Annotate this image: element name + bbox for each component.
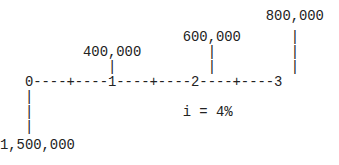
row-1500k-label: 1,500,000 [0, 138, 75, 153]
interest-rate-row: | i = 4% [0, 105, 233, 120]
down-arrow-2: | [0, 120, 33, 135]
row-400k-label: 400,000 | | [0, 45, 299, 60]
row-600k-label: 600,000 | [0, 30, 299, 45]
timeline-axis: 0----+----1----+----2----+----3 [0, 75, 282, 90]
down-arrow-1: | [0, 90, 33, 105]
row-up-arrows: | | | [0, 60, 299, 75]
row-800k-label: 800,000 [0, 9, 324, 24]
